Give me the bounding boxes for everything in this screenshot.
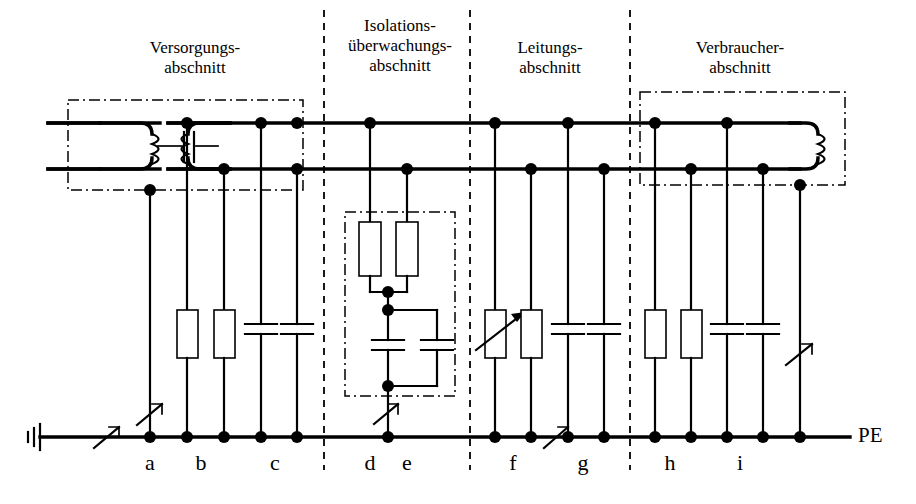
load-enclosure bbox=[640, 92, 845, 185]
section-label-verbraucher: Verbraucher- abschnitt bbox=[645, 38, 835, 78]
branch-load-fault bbox=[786, 179, 812, 443]
branch-g2-capacitor bbox=[588, 163, 620, 443]
fault-arrow-e bbox=[374, 404, 398, 424]
branch-f2-resistor bbox=[521, 163, 542, 443]
pe-rail-label: PE bbox=[858, 425, 883, 446]
branch-c2-capacitor bbox=[281, 117, 313, 443]
branch-label-g: g bbox=[568, 452, 598, 474]
supply-transformer bbox=[48, 123, 230, 169]
insulation-monitoring-device bbox=[359, 117, 453, 443]
branch-a bbox=[137, 184, 162, 443]
branch-h2-resistor bbox=[681, 163, 702, 443]
branch-h1-resistor bbox=[645, 117, 666, 443]
section-label-isolation: Isolations- überwachungs- abschnitt bbox=[330, 16, 470, 76]
branch-label-c: c bbox=[260, 452, 290, 474]
branch-label-a: a bbox=[135, 452, 165, 474]
branch-label-b: b bbox=[186, 452, 216, 474]
branch-c1-capacitor bbox=[245, 117, 277, 443]
branch-b1-resistor bbox=[177, 117, 198, 443]
load-coil bbox=[790, 123, 825, 169]
branch-label-d: d bbox=[355, 452, 385, 474]
section-label-versorgung: Versorgungs- abschnitt bbox=[80, 38, 310, 78]
section-label-leitung: Leitungs- abschnitt bbox=[480, 38, 620, 78]
branch-label-h: h bbox=[655, 452, 685, 474]
branch-g1-capacitor bbox=[552, 117, 584, 443]
branch-i2-capacitor bbox=[747, 163, 779, 443]
branch-label-i: i bbox=[725, 452, 755, 474]
branch-label-e: e bbox=[392, 452, 422, 474]
branch-b2-resistor bbox=[214, 163, 235, 443]
branch-f1-variable-resistor bbox=[476, 117, 525, 443]
circuit-diagram-canvas: .w { stroke:#000; stroke-width:2.2; fill… bbox=[0, 0, 916, 504]
branch-i1-capacitor bbox=[711, 117, 743, 443]
branch-label-f: f bbox=[498, 452, 528, 474]
